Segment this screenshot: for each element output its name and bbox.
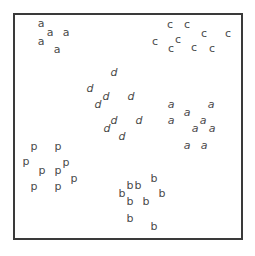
glyph-b: b <box>151 173 158 184</box>
glyph-a-upright: a <box>63 27 70 38</box>
glyph-a-italic: a <box>201 140 208 151</box>
glyph-c: c <box>184 19 190 30</box>
glyph-b: b <box>135 180 142 191</box>
glyph-p: p <box>23 156 30 167</box>
glyph-b: b <box>127 180 134 191</box>
glyph-a-italic: a <box>208 99 215 110</box>
glyph-b: b <box>151 221 158 232</box>
glyph-c: c <box>168 43 174 54</box>
glyph-b: b <box>119 188 126 199</box>
glyph-p: p <box>31 181 38 192</box>
glyph-d: d <box>136 115 143 126</box>
glyph-c: c <box>225 28 231 39</box>
glyph-p: p <box>71 173 78 184</box>
glyph-c: c <box>191 42 197 53</box>
glyph-d: d <box>103 91 110 102</box>
glyph-a-italic: a <box>184 140 191 151</box>
glyph-d: d <box>111 115 118 126</box>
glyph-c: c <box>201 28 207 39</box>
glyph-b: b <box>159 188 166 199</box>
glyph-d: d <box>87 83 94 94</box>
glyph-p: p <box>39 165 46 176</box>
glyph-d: d <box>111 67 118 78</box>
glyph-a-italic: a <box>200 115 207 126</box>
glyph-c: c <box>152 36 158 47</box>
glyph-c: c <box>167 19 173 30</box>
glyph-p: p <box>55 165 62 176</box>
glyph-p: p <box>55 181 62 192</box>
glyph-p: p <box>63 157 70 168</box>
glyph-p: p <box>55 141 62 152</box>
glyph-a-italic: a <box>184 107 191 118</box>
glyph-a-upright: a <box>54 44 61 55</box>
glyph-a-italic: a <box>209 123 216 134</box>
glyph-d: d <box>119 131 126 142</box>
glyph-c: c <box>209 43 215 54</box>
glyph-a-italic: a <box>192 123 199 134</box>
glyph-p: p <box>31 141 38 152</box>
glyph-d: d <box>104 123 111 134</box>
glyph-c: c <box>175 34 181 45</box>
glyph-b: b <box>143 196 150 207</box>
glyph-b: b <box>127 213 134 224</box>
glyph-a-italic: a <box>168 99 175 110</box>
glyph-a-upright: a <box>47 27 54 38</box>
glyph-a-upright: a <box>38 36 45 47</box>
glyph-b: b <box>127 196 134 207</box>
glyph-d: d <box>128 91 135 102</box>
glyph-d: d <box>95 99 102 110</box>
glyph-a-upright: a <box>38 18 45 29</box>
glyph-a-italic: a <box>168 115 175 126</box>
